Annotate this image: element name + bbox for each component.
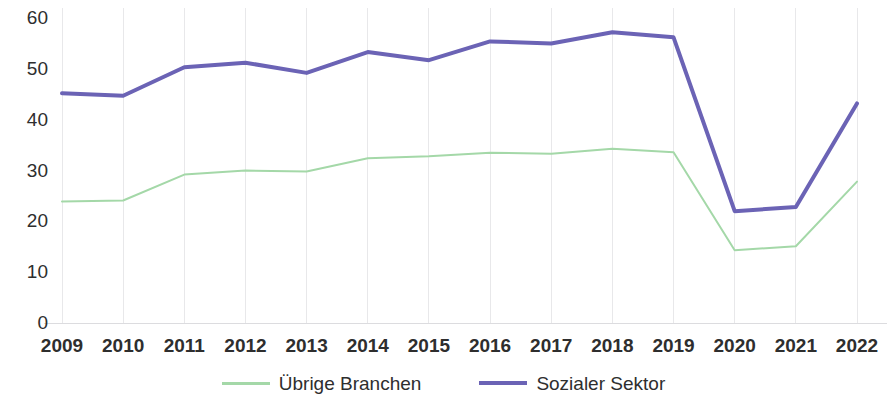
x-tick-label: 2009: [27, 336, 97, 355]
legend-label: Übrige Branchen: [279, 374, 422, 393]
x-tick-label: 2015: [394, 336, 464, 355]
y-tick-label: 40: [4, 110, 48, 129]
vertical-gridlines: [62, 8, 857, 323]
y-tick-label: 30: [4, 161, 48, 180]
x-tick-label: 2012: [210, 336, 280, 355]
legend-line-swatch-icon: [222, 382, 270, 385]
y-tick-label: 0: [4, 313, 48, 332]
legend-item[interactable]: Übrige Branchen: [222, 374, 422, 393]
x-tick-label: 2022: [822, 336, 887, 355]
x-tick-label: 2013: [272, 336, 342, 355]
x-tick-label: 2018: [577, 336, 647, 355]
x-tick-label: 2017: [516, 336, 586, 355]
x-tick-label: 2019: [639, 336, 709, 355]
x-tick-label: 2021: [761, 336, 831, 355]
x-tick-label: 2016: [455, 336, 525, 355]
x-tick-label: 2020: [700, 336, 770, 355]
x-tick-label: 2014: [333, 336, 403, 355]
data-series-group: [62, 32, 857, 250]
legend-item[interactable]: Sozialer Sektor: [479, 374, 665, 393]
legend-line-swatch-icon: [479, 381, 527, 385]
y-tick-label: 10: [4, 262, 48, 281]
y-axis: 0102030405060: [0, 0, 48, 340]
legend-label: Sozialer Sektor: [536, 374, 665, 393]
x-tick-label: 2010: [88, 336, 158, 355]
series-line-2: [62, 32, 857, 211]
series-line-1: [62, 149, 857, 251]
y-tick-label: 60: [4, 8, 48, 27]
y-tick-label: 50: [4, 59, 48, 78]
x-tick-label: 2011: [149, 336, 219, 355]
line-chart: 0102030405060 20092010201120122013201420…: [0, 0, 887, 401]
y-tick-label: 20: [4, 211, 48, 230]
chart-legend: Übrige BranchenSozialer Sektor: [0, 368, 887, 398]
